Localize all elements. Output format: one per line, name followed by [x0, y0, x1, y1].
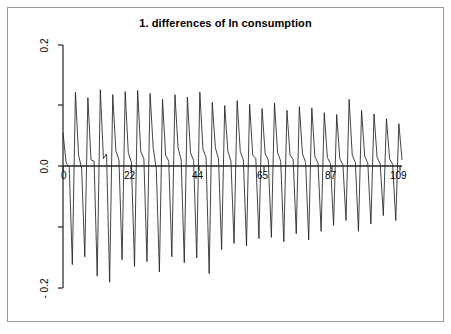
x-tick-label-87: 87	[325, 170, 336, 181]
x-tick-label-22: 22	[124, 170, 135, 181]
axis-group	[58, 45, 402, 288]
y-tick-label-mid: 0.0	[39, 147, 50, 187]
y-axis-ticks	[58, 45, 63, 288]
x-tick-label-65: 65	[257, 170, 268, 181]
x-tick-label-109: 109	[390, 170, 407, 181]
y-tick-label-top: 0.2	[39, 26, 50, 66]
x-tick-label-44: 44	[192, 170, 203, 181]
data-series-line	[63, 90, 402, 282]
figure-canvas: 1. differences of ln consumption 0	[0, 0, 451, 334]
x-tick-label-0: 0	[61, 170, 67, 181]
line-chart-plot	[0, 0, 451, 334]
y-tick-label-bottom: - 0.2	[39, 265, 50, 313]
